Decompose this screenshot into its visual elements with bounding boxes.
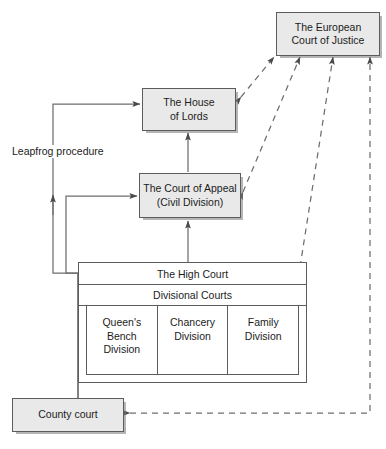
division-chancery-line1: Chancery: [158, 316, 228, 330]
court-of-appeal-label-line1: The Court of Appeal: [143, 182, 236, 196]
division-family-line1: Family: [228, 316, 298, 330]
node-high-court[interactable]: The High Court Divisional Courts Queen's…: [78, 262, 307, 383]
high-court-title-row: The High Court: [79, 263, 306, 285]
division-chancery-line2: Division: [158, 330, 228, 344]
node-house-of-lords[interactable]: The House of Lords: [142, 88, 236, 131]
high-court-title: The High Court: [157, 268, 228, 280]
node-european-court-of-justice[interactable]: The European Court of Justice: [276, 12, 380, 56]
house-of-lords-label-line2: of Lords: [170, 110, 208, 124]
court-of-appeal-label-line2: (Civil Division): [157, 196, 224, 210]
ecj-label-line2: Court of Justice: [292, 34, 365, 48]
leapfrog-procedure-label: Leapfrog procedure: [10, 145, 106, 158]
wire-court-of-appeal-to-ecj: [243, 57, 300, 192]
division-queens-bench-line1: Queen's: [87, 316, 157, 330]
division-family[interactable]: Family Division: [227, 306, 299, 375]
divisional-courts-label: Divisional Courts: [153, 289, 232, 301]
division-queens-bench-line3: Division: [87, 343, 157, 357]
node-county-court[interactable]: County court: [12, 398, 124, 432]
wire-house-of-lords-to-ecj: [241, 57, 274, 97]
ecj-label-line1: The European: [295, 21, 362, 35]
house-of-lords-label-line1: The House: [163, 96, 214, 110]
division-chancery[interactable]: Chancery Division: [157, 306, 229, 375]
court-hierarchy-diagram: The European Court of Justice The House …: [0, 0, 386, 449]
division-family-line2: Division: [228, 330, 298, 344]
divisional-courts-row: Divisional Courts: [79, 285, 306, 306]
division-queens-bench-line2: Bench: [87, 330, 157, 344]
county-court-label: County court: [38, 408, 98, 422]
divisions-container: Queen's Bench Division Chancery Division…: [79, 306, 306, 382]
wire-high-court-to-ecj: [300, 57, 333, 267]
division-queens-bench[interactable]: Queen's Bench Division: [86, 306, 158, 375]
node-court-of-appeal[interactable]: The Court of Appeal (Civil Division): [139, 173, 241, 218]
